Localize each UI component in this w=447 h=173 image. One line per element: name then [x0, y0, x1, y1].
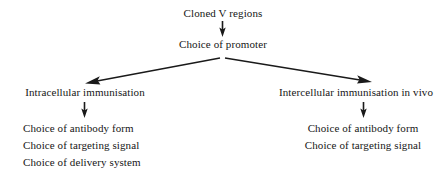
arrow-intracellular-to-list — [81, 102, 87, 118]
arrow-cloned-to-promoter — [219, 21, 225, 37]
list-item: Choice of targeting signal — [23, 137, 141, 154]
arrow-promoter-to-intercellular — [225, 58, 372, 84]
list-item: Choice of antibody form — [305, 120, 421, 137]
node-intercellular-immunisation-in-vivo: Intercellular immunisation in vivo — [279, 86, 433, 99]
list-item: Choice of targeting signal — [305, 137, 421, 154]
list-intercellular-options: Choice of antibody form Choice of target… — [305, 120, 421, 154]
arrow-intercellular-to-list — [360, 102, 366, 118]
arrow-promoter-to-intracellular — [85, 58, 220, 85]
node-choice-of-promoter: Choice of promoter — [179, 38, 267, 51]
flowchart-diagram: Cloned V regions Choice of promoter Intr… — [0, 0, 447, 173]
list-item: Choice of antibody form — [23, 120, 141, 137]
list-intracellular-options: Choice of antibody form Choice of target… — [23, 120, 141, 171]
list-item: Choice of delivery system — [23, 154, 141, 171]
node-cloned-v-regions: Cloned V regions — [184, 7, 263, 20]
node-intracellular-immunisation: Intracellular immunisation — [25, 86, 145, 99]
